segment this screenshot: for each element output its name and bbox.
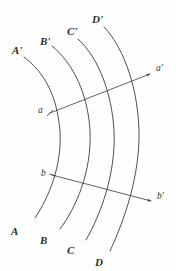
label-b: b	[41, 169, 46, 179]
figure-canvas: A' B' C' D' A B C D a a' b b'	[0, 0, 176, 271]
ray-a-tick	[47, 110, 53, 116]
label-a: a	[38, 106, 43, 116]
label-A-prime: A'	[12, 45, 22, 56]
label-C-prime: C'	[67, 26, 77, 37]
label-C: C	[67, 245, 74, 256]
label-a-prime: a'	[156, 64, 163, 74]
curve-C	[78, 39, 114, 240]
curve-B	[52, 46, 90, 229]
ray-group	[47, 74, 151, 201]
label-D: D	[95, 257, 103, 268]
label-B-prime: B'	[40, 36, 50, 47]
label-B: B	[40, 235, 47, 246]
curve-A	[24, 57, 60, 218]
diagram-svg	[0, 0, 176, 271]
label-A: A	[11, 226, 18, 237]
label-b-prime: b'	[157, 192, 164, 202]
ray-b-line	[52, 175, 151, 201]
curve-group	[24, 27, 139, 251]
label-D-prime: D'	[92, 14, 103, 25]
curve-D	[104, 27, 139, 251]
